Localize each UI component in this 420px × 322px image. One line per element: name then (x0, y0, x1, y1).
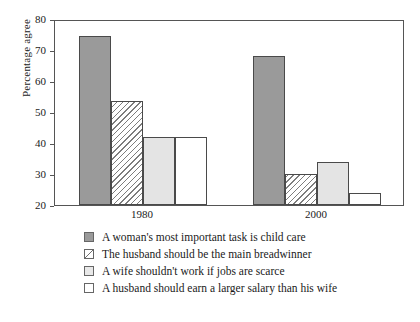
y-tick-mark (50, 206, 54, 207)
figure: Percentage agree 20304050607080 19802000… (0, 0, 420, 322)
legend-label: The husband should be the main breadwinn… (102, 247, 312, 261)
y-tick-label: 50 (35, 105, 46, 120)
legend-swatch-hatch (84, 249, 94, 259)
y-tick: 40 (0, 144, 54, 145)
y-tick: 20 (0, 206, 54, 207)
y-tick-label: 80 (35, 12, 46, 27)
legend-item: A wife shouldn't work if jobs are scarce (84, 262, 414, 279)
y-tick: 30 (0, 175, 54, 176)
y-tick-label: 60 (35, 74, 46, 89)
bar (175, 137, 207, 205)
legend-label: A wife shouldn't work if jobs are scarce (102, 264, 285, 278)
legend-swatch-light (84, 266, 94, 276)
legend-swatch-white (84, 283, 94, 293)
bar (317, 162, 349, 205)
bar (253, 56, 285, 205)
legend-label: A husband should earn a larger salary th… (102, 281, 337, 295)
legend-item: A woman's most important task is child c… (84, 228, 414, 245)
x-tick-label: 1980 (102, 208, 182, 220)
bar (143, 137, 175, 205)
legend-label: A woman's most important task is child c… (102, 230, 306, 244)
plot-frame (54, 20, 404, 206)
legend-item: The husband should be the main breadwinn… (84, 245, 414, 262)
y-tick: 70 (0, 51, 54, 52)
plot-area: Percentage agree 20304050607080 19802000 (0, 0, 420, 222)
y-tick-label: 30 (35, 167, 46, 182)
y-tick-label: 40 (35, 136, 46, 151)
bar (111, 101, 143, 205)
y-tick: 60 (0, 82, 54, 83)
bar (285, 174, 317, 205)
bar (79, 36, 111, 205)
y-tick-label: 70 (35, 43, 46, 58)
y-tick: 50 (0, 113, 54, 114)
legend-swatch-solid (84, 232, 94, 242)
legend-item: A husband should earn a larger salary th… (84, 279, 414, 296)
y-tick-label: 20 (35, 198, 46, 213)
bar (349, 193, 381, 205)
y-tick: 80 (0, 20, 54, 21)
legend: A woman's most important task is child c… (84, 228, 414, 296)
x-tick-label: 2000 (276, 208, 356, 220)
